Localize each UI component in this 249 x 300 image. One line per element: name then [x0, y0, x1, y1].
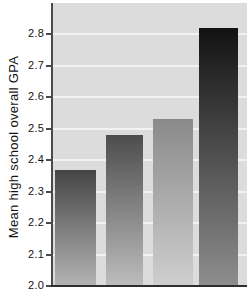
y-tick-label: 2.6 [16, 91, 44, 102]
y-tick-label: 2.3 [16, 186, 44, 197]
y-tick-mark [46, 222, 51, 224]
bar-2 [106, 135, 143, 286]
gpa-bar-chart: Mean high school overall GPA 2.02.12.22.… [0, 0, 249, 300]
y-tick-label: 2.0 [16, 280, 44, 291]
y-tick-label: 2.4 [16, 154, 44, 165]
bar-4 [199, 28, 238, 286]
y-tick-label: 2.8 [16, 28, 44, 39]
y-tick-label: 2.1 [16, 249, 44, 260]
bar-1 [55, 170, 96, 286]
y-tick-mark [46, 285, 51, 287]
y-tick-mark [46, 191, 51, 193]
x-axis-baseline [51, 285, 247, 287]
y-axis-line [51, 3, 53, 286]
plot-area [53, 3, 247, 286]
y-tick-mark [46, 96, 51, 98]
y-axis-title: Mean high school overall GPA [6, 55, 21, 237]
y-tick-label: 2.7 [16, 60, 44, 71]
y-tick-label: 2.5 [16, 123, 44, 134]
y-tick-mark [46, 128, 51, 130]
y-tick-mark [46, 65, 51, 67]
y-tick-mark [46, 33, 51, 35]
bar-3 [153, 119, 193, 286]
y-tick-mark [46, 254, 51, 256]
y-tick-label: 2.2 [16, 217, 44, 228]
y-tick-mark [46, 159, 51, 161]
